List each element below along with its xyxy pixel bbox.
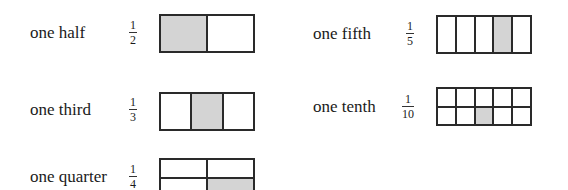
empty-cell (494, 89, 511, 106)
empty-cell (161, 94, 190, 129)
empty-cell (476, 89, 493, 106)
fraction-diagram (436, 15, 532, 54)
empty-cell (208, 160, 253, 177)
empty-cell (224, 94, 253, 129)
fraction-diagram (159, 158, 255, 190)
fraction-symbol: 1 5 (403, 20, 417, 47)
empty-cell (457, 17, 474, 52)
denominator: 2 (130, 33, 136, 46)
shaded-cell (494, 17, 511, 52)
fraction-label: one fifth (313, 25, 371, 42)
empty-cell (494, 108, 511, 125)
fraction-label: one tenth (313, 98, 376, 115)
numerator: 1 (407, 20, 413, 33)
shaded-cell (161, 16, 206, 51)
fraction-diagram (159, 92, 255, 131)
numerator: 1 (130, 163, 136, 176)
shaded-cell (208, 179, 253, 190)
empty-cell (513, 17, 530, 52)
empty-cell (513, 108, 530, 125)
empty-cell (457, 89, 474, 106)
empty-cell (208, 16, 253, 51)
fraction-diagram (159, 14, 255, 53)
empty-cell (513, 89, 530, 106)
empty-cell (438, 108, 455, 125)
empty-cell (438, 17, 455, 52)
fraction-diagram (436, 87, 532, 126)
empty-cell (438, 89, 455, 106)
fraction-symbol: 1 4 (126, 163, 140, 190)
denominator: 5 (407, 34, 413, 47)
fraction-symbol: 1 2 (126, 19, 140, 46)
fraction-symbol: 1 3 (126, 96, 140, 123)
fraction-label: one third (30, 101, 91, 118)
empty-cell (161, 160, 206, 177)
fraction-label: one quarter (30, 168, 107, 185)
shaded-cell (476, 108, 493, 125)
fraction-label: one half (30, 24, 85, 41)
numerator: 1 (405, 93, 411, 106)
denominator: 4 (130, 177, 136, 190)
empty-cell (476, 17, 493, 52)
empty-cell (457, 108, 474, 125)
numerator: 1 (130, 96, 136, 109)
denominator: 3 (130, 110, 136, 123)
empty-cell (161, 179, 206, 190)
fraction-symbol: 1 10 (398, 93, 418, 120)
denominator: 10 (402, 107, 414, 120)
shaded-cell (192, 94, 221, 129)
numerator: 1 (130, 19, 136, 32)
